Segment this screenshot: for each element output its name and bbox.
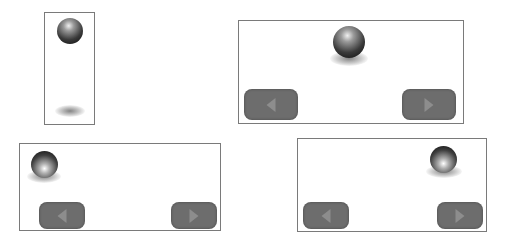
panel-4-frame xyxy=(297,138,487,232)
arrow-left-icon xyxy=(267,98,276,112)
ball xyxy=(31,151,58,178)
previous-button[interactable] xyxy=(244,89,298,120)
ball xyxy=(430,146,457,173)
arrow-right-icon xyxy=(425,98,434,112)
panel-2-frame xyxy=(238,20,464,124)
ball xyxy=(333,26,365,58)
next-button[interactable] xyxy=(402,89,456,120)
arrow-left-icon xyxy=(322,209,331,223)
previous-button[interactable] xyxy=(303,202,349,229)
next-button[interactable] xyxy=(437,202,483,229)
ball xyxy=(57,18,83,44)
arrow-right-icon xyxy=(190,209,199,223)
next-button[interactable] xyxy=(171,202,217,229)
arrow-left-icon xyxy=(58,209,67,223)
arrow-right-icon xyxy=(456,209,465,223)
ball-shadow xyxy=(55,105,85,117)
panel-3-frame xyxy=(19,143,221,231)
previous-button[interactable] xyxy=(39,202,85,229)
panel-1-frame xyxy=(44,12,95,125)
